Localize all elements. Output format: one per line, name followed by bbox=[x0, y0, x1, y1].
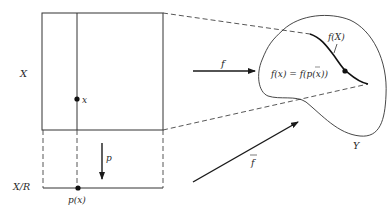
quotient-map-diagram: X X/R x p(x) p f f f(X) f(x) = f(p(x)) Y bbox=[0, 0, 391, 212]
svg-text:f: f bbox=[250, 157, 256, 168]
image-point-dot bbox=[342, 68, 347, 73]
point-px-dot bbox=[75, 185, 80, 190]
lower-dashed-connector bbox=[163, 84, 368, 130]
space-x-square bbox=[42, 13, 163, 130]
label-image-fx: f(X) bbox=[327, 32, 345, 42]
label-quotient: X/R bbox=[12, 181, 30, 192]
upper-dashed-connector bbox=[163, 13, 310, 34]
label-equation: f(x) = f(p(x)) bbox=[270, 67, 328, 79]
label-map-f: f bbox=[220, 58, 227, 69]
label-space-x: X bbox=[19, 68, 28, 79]
point-x-dot bbox=[74, 96, 79, 101]
map-fbar-arrow bbox=[193, 122, 298, 182]
label-map-p: p bbox=[106, 153, 112, 163]
svg-text:f(x) = f(p(x)): f(x) = f(p(x)) bbox=[270, 69, 328, 79]
image-label-pointer bbox=[334, 44, 337, 53]
label-map-fbar: f bbox=[250, 155, 257, 168]
label-point-px: p(x) bbox=[68, 195, 86, 205]
label-space-y: Y bbox=[353, 140, 361, 151]
label-point-x: x bbox=[82, 95, 87, 105]
